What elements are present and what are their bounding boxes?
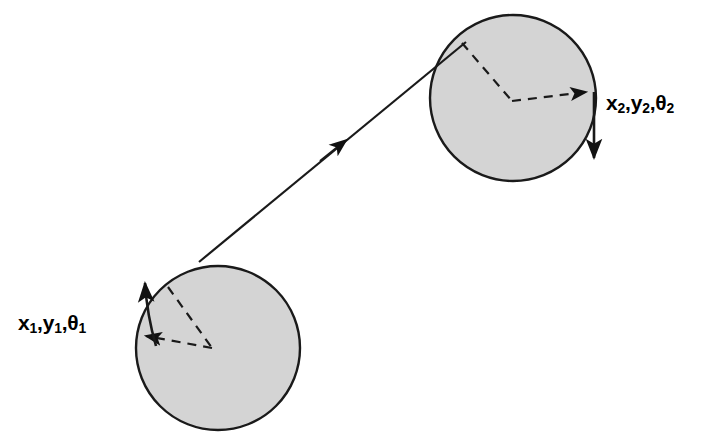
pose-label-start-x: x bbox=[18, 311, 29, 334]
pose-label-goal-theta: θ bbox=[655, 91, 666, 114]
pose-transition-svg bbox=[0, 0, 714, 440]
pose-label-start-y: y bbox=[43, 311, 54, 334]
robot-body-goal bbox=[430, 15, 596, 181]
pose-label-goal-x-sub: 2 bbox=[617, 100, 625, 116]
trajectory-mid-arrow-stem bbox=[320, 145, 340, 161]
pose-label-goal-x: x bbox=[606, 91, 617, 114]
pose-label-start-x-sub: 1 bbox=[29, 320, 37, 336]
pose-label-start-y-sub: 1 bbox=[54, 320, 62, 336]
robot-body-start bbox=[136, 266, 300, 430]
pose-label-start-theta-sub: 1 bbox=[78, 320, 86, 336]
pose-label-goal: x2,y2,θ2 bbox=[606, 92, 674, 113]
pose-label-start-theta: θ bbox=[67, 311, 78, 334]
diagram-canvas: x2,y2,θ2 x1,y1,θ1 bbox=[0, 0, 714, 440]
pose-label-goal-y-sub: 2 bbox=[642, 100, 650, 116]
pose-label-goal-theta-sub: 2 bbox=[666, 100, 674, 116]
pose-label-start: x1,y1,θ1 bbox=[18, 312, 86, 333]
pose-label-goal-y: y bbox=[631, 91, 642, 114]
